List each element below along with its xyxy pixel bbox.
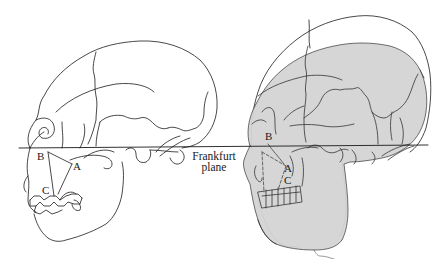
skull-drawing [0,0,439,259]
frankfurt-plane-label: Frankfurt plane [186,151,242,173]
right-label-c: C [284,175,291,186]
left-skull [24,41,217,241]
left-label-a: A [73,161,81,172]
left-label-b: B [37,151,44,162]
right-skull-shaded [243,43,426,259]
left-label-c: C [42,185,49,196]
right-label-b: B [265,131,272,142]
skull-comparison-figure: B A C B A C Frankfurt plane [0,0,439,259]
right-label-a: A [284,163,292,174]
frankfurt-plane-label-line2: plane [186,162,242,173]
